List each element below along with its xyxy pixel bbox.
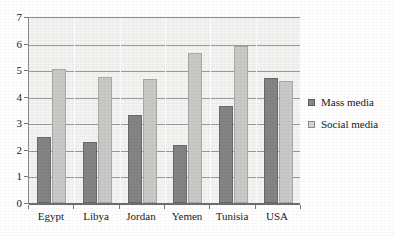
x-tick-mark [255,205,256,209]
bar-mass-media-jordan [128,115,142,203]
plot-area [28,17,300,203]
x-tick-mark [164,205,165,209]
x-tick-mark [28,205,29,209]
legend-item-mass-media[interactable]: Mass media [308,93,394,111]
bar-mass-media-libya [83,142,97,203]
x-tick-mark [73,205,74,209]
legend-label: Social media [321,119,378,130]
legend-swatch-icon [308,99,315,106]
x-tick-mark [300,205,301,209]
x-axis-line [28,203,300,204]
y-tick-label: 7 [17,12,23,23]
x-tick-label-usa: USA [266,211,288,222]
y-axis: 01234567 [0,17,28,203]
y-tick-label: 6 [17,39,23,50]
bar-mass-media-usa [264,78,278,203]
x-axis-labels: EgyptLibyaJordanYemenTunisiaUSA [28,205,300,229]
category-separator [74,18,75,203]
y-tick-label: 0 [17,198,23,209]
x-tick-label-libya: Libya [83,211,109,222]
y-tick-label: 3 [17,118,23,129]
bar-social-media-jordan [143,79,157,203]
bar-mass-media-tunisia [219,106,233,203]
category-separator [210,18,211,203]
x-tick-label-yemen: Yemen [172,211,203,222]
bar-social-media-libya [98,77,112,203]
category-separator [120,18,121,203]
bar-mass-media-egypt [37,137,51,203]
x-tick-label-tunisia: Tunisia [216,211,249,222]
y-tick-label: 2 [17,145,23,156]
chart-legend: Mass mediaSocial media [308,93,394,137]
bar-social-media-yemen [188,53,202,203]
category-separator [256,18,257,203]
legend-label: Mass media [321,97,374,108]
y-tick-label: 1 [17,171,23,182]
y-tick-label: 4 [17,92,23,103]
x-tick-mark [119,205,120,209]
bar-mass-media-yemen [173,145,187,203]
bar-chart-figure: 01234567 EgyptLibyaJordanYemenTunisiaUSA… [0,0,395,236]
bar-social-media-usa [279,81,293,203]
legend-swatch-icon [308,121,315,128]
bar-social-media-egypt [52,69,66,203]
legend-item-social-media[interactable]: Social media [308,115,394,133]
x-tick-label-egypt: Egypt [38,211,64,222]
category-separator [165,18,166,203]
x-tick-label-jordan: Jordan [126,211,155,222]
x-tick-mark [209,205,210,209]
bar-social-media-tunisia [234,46,248,203]
y-tick-label: 5 [17,65,23,76]
